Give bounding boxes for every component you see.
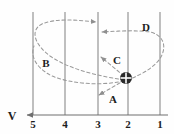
gridline-group <box>33 12 160 115</box>
path-label-d: D <box>142 22 150 33</box>
tick-label-2: 2 <box>125 119 131 130</box>
tick-label-1: 1 <box>157 119 163 130</box>
path-label-b: B <box>42 58 49 69</box>
tick-label-3: 3 <box>95 119 101 130</box>
path-label-a: A <box>109 94 117 105</box>
tick-label-4: 4 <box>62 119 68 130</box>
charged-particle-marker <box>120 72 132 84</box>
path-d <box>102 31 164 80</box>
axis-label-v: V <box>8 110 17 122</box>
tick-label-5: 5 <box>30 119 36 130</box>
path-b <box>35 20 124 80</box>
path-label-c: C <box>113 55 121 66</box>
trajectory-figure: 5 4 3 2 1 V A B C D <box>0 0 174 134</box>
